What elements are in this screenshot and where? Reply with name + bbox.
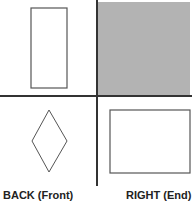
tall-rectangle-view: [31, 8, 67, 88]
label-right-end: RIGHT (End): [126, 189, 191, 201]
projection-diagram: BACK (Front) RIGHT (End): [0, 0, 192, 202]
diamond-view: [32, 110, 67, 172]
wide-rectangle-view: [110, 110, 190, 173]
diagram-svg: [0, 0, 192, 202]
shaded-quadrant: [97, 2, 190, 95]
label-back-front: BACK (Front): [3, 189, 73, 201]
